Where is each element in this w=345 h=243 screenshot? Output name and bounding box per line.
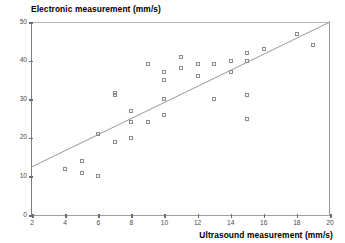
data-point-marker bbox=[63, 167, 67, 171]
x-tick-label: 18 bbox=[287, 220, 307, 227]
x-tick-mark bbox=[330, 214, 332, 218]
x-tick-label: 12 bbox=[188, 220, 208, 227]
data-point-marker bbox=[113, 140, 117, 144]
data-point-marker bbox=[129, 136, 133, 140]
data-point-marker bbox=[96, 132, 100, 136]
data-point-marker bbox=[96, 174, 100, 178]
data-point-marker bbox=[146, 120, 150, 124]
data-point-marker bbox=[196, 62, 200, 66]
data-point-marker bbox=[245, 117, 249, 121]
plot-area bbox=[32, 22, 330, 215]
x-tick-mark bbox=[297, 214, 299, 218]
y-tick-mark bbox=[29, 99, 33, 101]
data-point-marker bbox=[162, 70, 166, 74]
data-point-marker bbox=[229, 70, 233, 74]
y-tick-mark bbox=[29, 22, 33, 24]
data-point-marker bbox=[129, 109, 133, 113]
x-tick-label: 16 bbox=[254, 220, 274, 227]
plot-frame-top-border bbox=[32, 22, 330, 23]
data-point-marker bbox=[179, 66, 183, 70]
x-tick-label: 2 bbox=[22, 220, 42, 227]
data-point-marker bbox=[162, 113, 166, 117]
data-point-marker bbox=[129, 120, 133, 124]
x-tick-mark bbox=[32, 214, 34, 218]
data-point-marker bbox=[245, 59, 249, 63]
y-tick-mark bbox=[29, 176, 33, 178]
plot-frame-right-border bbox=[329, 22, 330, 215]
x-tick-mark bbox=[264, 214, 266, 218]
x-tick-label: 4 bbox=[55, 220, 75, 227]
x-tick-mark bbox=[198, 214, 200, 218]
x-tick-label: 10 bbox=[154, 220, 174, 227]
x-tick-mark bbox=[131, 214, 133, 218]
data-point-marker bbox=[146, 62, 150, 66]
x-tick-label: 6 bbox=[88, 220, 108, 227]
scatter-plot-figure: Electronic measurement (mm/s) 0102030405… bbox=[0, 0, 345, 243]
x-tick-mark bbox=[65, 214, 67, 218]
data-point-marker bbox=[162, 78, 166, 82]
y-axis-title: Electronic measurement (mm/s) bbox=[31, 4, 161, 14]
x-axis-line bbox=[32, 215, 331, 216]
data-point-marker bbox=[80, 171, 84, 175]
x-tick-label: 14 bbox=[221, 220, 241, 227]
data-point-marker bbox=[113, 91, 117, 95]
y-tick-label: 50 bbox=[7, 19, 27, 26]
x-axis-title: Ultrasound measurement (mm/s) bbox=[199, 230, 333, 240]
x-tick-label: 20 bbox=[320, 220, 340, 227]
data-point-marker bbox=[311, 43, 315, 47]
x-tick-label: 8 bbox=[121, 220, 141, 227]
x-tick-mark bbox=[231, 214, 233, 218]
y-tick-label: 0 bbox=[7, 212, 27, 219]
data-point-marker bbox=[295, 32, 299, 36]
data-point-marker bbox=[245, 93, 249, 97]
y-tick-label: 40 bbox=[7, 57, 27, 64]
data-point-marker bbox=[212, 62, 216, 66]
data-point-marker bbox=[212, 97, 216, 101]
data-point-marker bbox=[229, 59, 233, 63]
y-tick-label: 30 bbox=[7, 96, 27, 103]
data-point-marker bbox=[179, 55, 183, 59]
data-point-marker bbox=[245, 51, 249, 55]
x-tick-mark bbox=[98, 214, 100, 218]
data-point-marker bbox=[162, 97, 166, 101]
y-tick-label: 10 bbox=[7, 173, 27, 180]
y-axis-line bbox=[31, 22, 32, 216]
data-point-marker bbox=[80, 159, 84, 163]
y-tick-mark bbox=[29, 61, 33, 63]
x-tick-mark bbox=[164, 214, 166, 218]
data-point-marker bbox=[262, 47, 266, 51]
y-tick-label: 20 bbox=[7, 134, 27, 141]
y-tick-mark bbox=[29, 138, 33, 140]
data-point-marker bbox=[196, 74, 200, 78]
